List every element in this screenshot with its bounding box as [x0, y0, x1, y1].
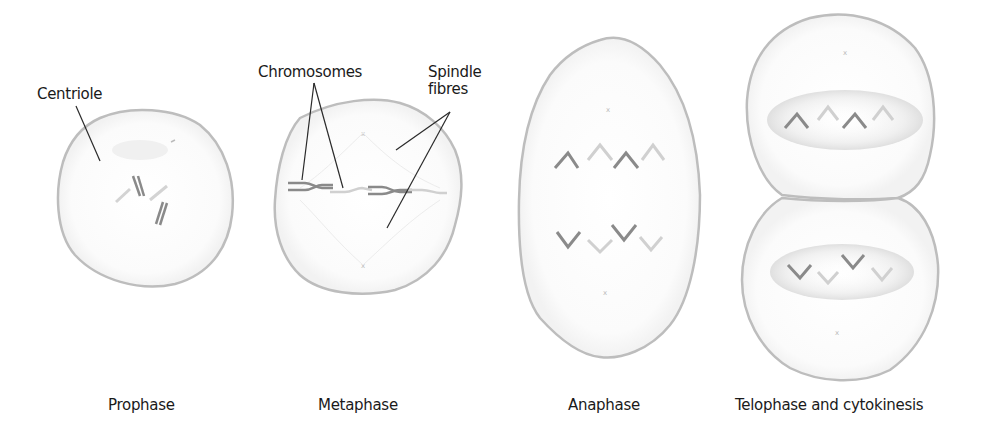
chromosomes-label: Chromosomes: [258, 64, 362, 81]
mitosis-diagram: x x x x: [0, 0, 997, 435]
centriole-label: Centriole: [37, 86, 102, 103]
prophase-cell: [58, 110, 233, 287]
svg-text:x: x: [843, 49, 847, 57]
svg-text:x: x: [835, 329, 839, 337]
svg-text:x: x: [603, 289, 607, 297]
svg-text:x: x: [606, 106, 610, 114]
spindle-fibres-label: Spindle fibres: [428, 64, 482, 97]
anaphase-cell: x x: [519, 38, 700, 358]
spindle-label-line2: fibres: [428, 81, 482, 98]
stage-label-prophase: Prophase: [108, 396, 175, 414]
spindle-label-line1: Spindle: [428, 64, 482, 81]
stage-label-metaphase: Metaphase: [318, 396, 398, 414]
cell-membrane: [519, 38, 700, 358]
cell-membrane: [58, 110, 233, 287]
stage-label-telophase: Telophase and cytokinesis: [735, 396, 923, 414]
metaphase-cell: x x: [275, 100, 462, 294]
telophase-cells: x x: [742, 15, 938, 381]
cell-membrane: [275, 100, 462, 294]
stage-label-anaphase: Anaphase: [568, 396, 640, 414]
